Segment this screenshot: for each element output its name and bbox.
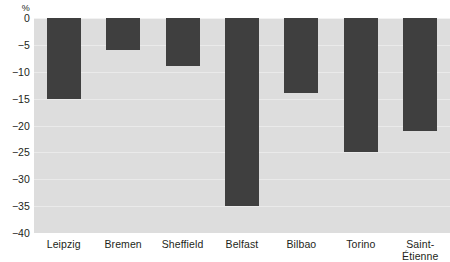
bar [106, 18, 140, 50]
x-axis-category-label: Saint- Étienne [391, 238, 450, 262]
y-axis: % 0−5−10−15−20−25−30−35−40 [0, 0, 34, 262]
y-axis-tick-label: −10 [12, 67, 30, 78]
plot-area [34, 18, 450, 233]
y-axis-tick-label: −30 [12, 174, 30, 185]
y-axis-tick-label: −15 [12, 93, 30, 104]
bar [403, 18, 437, 131]
x-axis-category-label: Bremen [93, 238, 152, 250]
bars-group [34, 18, 450, 233]
x-axis-category-label: Torino [331, 238, 390, 250]
y-axis-tick-label: −25 [12, 147, 30, 158]
x-axis: LeipzigBremenSheffieldBelfastBilbaoTorin… [34, 233, 450, 262]
x-axis-category-label: Belfast [212, 238, 271, 250]
bar [344, 18, 378, 152]
y-axis-tick-label: −20 [12, 120, 30, 131]
y-axis-tick-label: −35 [12, 201, 30, 212]
bar-chart: % 0−5−10−15−20−25−30−35−40 LeipzigBremen… [0, 0, 450, 262]
y-axis-tick-label: −40 [12, 228, 30, 239]
bar [284, 18, 318, 93]
bar [47, 18, 81, 99]
bar [225, 18, 259, 206]
x-axis-category-label: Leipzig [34, 238, 93, 250]
bar [166, 18, 200, 66]
y-axis-tick-label: −5 [18, 40, 30, 51]
y-axis-tick-label: 0 [24, 13, 30, 24]
x-axis-category-label: Sheffield [153, 238, 212, 250]
x-axis-category-label: Bilbao [272, 238, 331, 250]
